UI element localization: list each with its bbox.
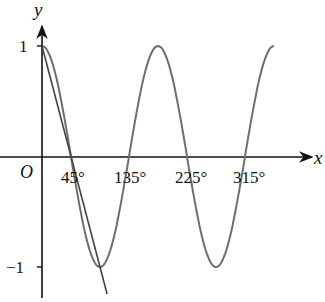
origin-label: O: [20, 162, 33, 182]
chart: y x O 1 −1 45° 135° 225° 315°: [0, 0, 325, 302]
y-axis-label: y: [32, 0, 43, 20]
x-axis-label: x: [313, 147, 323, 168]
x-tick-label-225: 225°: [175, 168, 207, 187]
x-tick-label-315: 315°: [233, 168, 265, 187]
y-tick-label-1: 1: [19, 37, 28, 56]
x-tick-label-45: 45°: [61, 168, 85, 187]
x-tick-label-135: 135°: [114, 168, 146, 187]
y-tick-label-neg1: −1: [6, 258, 24, 277]
